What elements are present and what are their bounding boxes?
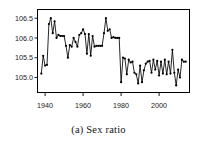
data-point: [137, 82, 139, 84]
data-point: [54, 20, 56, 22]
x-tick-label: 1960: [75, 101, 91, 110]
data-point: [67, 57, 69, 59]
data-point: [57, 34, 59, 36]
data-point: [101, 45, 103, 47]
data-point: [74, 41, 76, 43]
data-point: [133, 72, 135, 74]
data-point: [168, 61, 170, 63]
data-point: [55, 37, 57, 39]
data-point: [150, 72, 152, 74]
data-point: [139, 65, 141, 67]
x-tick-label: 2000: [151, 101, 167, 110]
data-point: [107, 30, 109, 32]
x-tick-label: 1940: [37, 101, 53, 110]
data-point: [50, 17, 52, 19]
data-point: [65, 45, 67, 47]
data-point: [61, 35, 63, 37]
data-point: [147, 61, 149, 63]
data-point: [122, 57, 124, 59]
data-point: [95, 45, 97, 47]
data-point: [46, 64, 48, 66]
chart-plot-area: 105.0105.5106.0106.5 1940196019802000: [0, 0, 197, 122]
data-point: [116, 37, 118, 39]
data-point: [156, 60, 158, 62]
data-point: [177, 68, 179, 70]
data-point: [126, 73, 128, 75]
data-point: [143, 69, 145, 71]
data-point: [135, 73, 137, 75]
data-point: [42, 55, 44, 57]
series-markers-sex-ratio: [40, 17, 187, 86]
data-point: [111, 37, 113, 39]
data-point: [109, 28, 111, 30]
data-point: [84, 33, 86, 35]
data-point: [48, 23, 50, 25]
data-point: [63, 35, 65, 37]
x-axis-tick-labels: 1940196019802000: [37, 101, 167, 110]
data-point: [130, 61, 132, 63]
y-tick-label: 105.5: [15, 53, 33, 62]
data-point: [76, 46, 78, 48]
data-point: [80, 32, 82, 34]
data-point: [185, 61, 187, 63]
y-tick-label: 106.0: [15, 34, 33, 43]
data-point: [131, 61, 133, 63]
series-line-sex-ratio: [41, 18, 185, 85]
data-point: [69, 44, 71, 46]
data-point: [97, 45, 99, 47]
data-point: [59, 35, 61, 37]
data-point: [92, 35, 94, 37]
data-point: [90, 55, 92, 57]
data-point: [124, 57, 126, 59]
data-point: [118, 37, 120, 39]
data-point: [114, 37, 116, 39]
data-point: [99, 45, 101, 47]
data-point: [105, 17, 107, 19]
y-tick-label: 106.5: [15, 14, 33, 23]
data-point: [164, 59, 166, 61]
x-axis-tick-marks: [45, 93, 159, 97]
data-point: [78, 34, 80, 36]
data-point: [103, 32, 105, 34]
data-point: [141, 81, 143, 83]
data-point: [152, 59, 154, 61]
data-point: [149, 60, 151, 62]
data-point: [86, 53, 88, 55]
data-point: [145, 63, 147, 65]
data-point: [169, 72, 171, 74]
figure-sex-ratio: 105.0105.5106.0106.5 1940196019802000 (a…: [0, 0, 197, 150]
data-point: [73, 37, 75, 39]
data-point: [40, 72, 42, 74]
data-point: [173, 72, 175, 74]
x-tick-label: 1980: [113, 101, 129, 110]
data-point: [154, 68, 156, 70]
plot-frame: [38, 10, 190, 93]
data-point: [162, 72, 164, 74]
data-point: [166, 73, 168, 75]
data-point: [179, 76, 181, 78]
data-point: [171, 49, 173, 51]
data-point: [82, 28, 84, 30]
data-point: [175, 84, 177, 86]
data-point: [71, 46, 73, 48]
data-point: [88, 33, 90, 35]
y-axis-tick-labels: 105.0105.5106.0106.5: [15, 14, 33, 82]
data-point: [128, 59, 130, 61]
figure-caption: (a) Sex ratio: [0, 124, 197, 135]
data-point: [112, 36, 114, 38]
data-point: [120, 81, 122, 83]
data-point: [93, 46, 95, 48]
data-point: [44, 65, 46, 67]
data-point: [52, 32, 54, 34]
sex-ratio-line-chart: 105.0105.5106.0106.5 1940196019802000: [0, 0, 197, 122]
y-tick-label: 105.0: [15, 73, 33, 82]
data-point: [160, 61, 162, 63]
data-point: [183, 61, 185, 63]
data-point: [181, 59, 183, 61]
data-point: [158, 74, 160, 76]
